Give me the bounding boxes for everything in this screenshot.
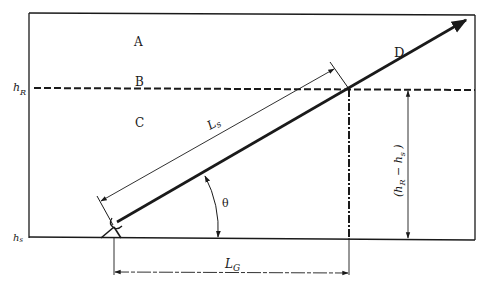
- ls-tick-start: [97, 196, 113, 225]
- level-label-hr: hR: [13, 81, 26, 97]
- dimension-label-height-difference: (hR − hs ): [392, 144, 407, 197]
- region-label-b: B: [135, 75, 144, 89]
- region-label-a: A: [133, 35, 143, 49]
- region-label-c: C: [135, 116, 144, 130]
- dimension-label-ls: Ls: [204, 114, 223, 134]
- reference-level-dashed-line: [34, 88, 475, 90]
- slope-geometry-diagram: A B C D hR hs Ls LG θ (hR − hs ): [0, 0, 486, 300]
- inclined-line-d: [117, 20, 466, 222]
- line-label-d: D: [394, 45, 404, 60]
- dimension-label-lg: LG: [224, 257, 240, 273]
- theta-angle-arc: [205, 176, 218, 237]
- level-label-hs: hs: [13, 232, 23, 244]
- box-top-edge: [29, 13, 475, 15]
- angle-label-theta: θ: [222, 197, 229, 210]
- lg-dimension-arrow: [115, 272, 348, 273]
- ls-tick-end: [330, 62, 349, 89]
